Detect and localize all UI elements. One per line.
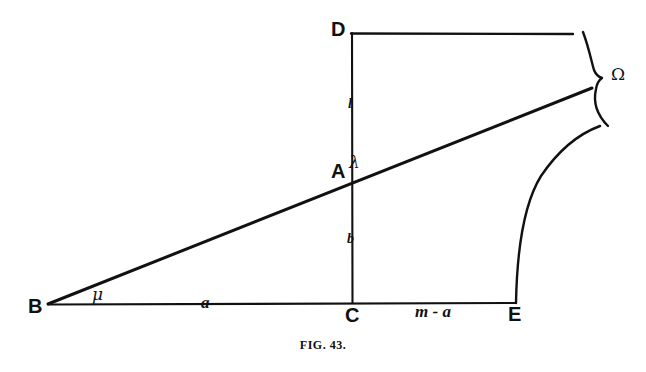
brace-label-omega: Ω xyxy=(611,66,625,83)
top-edge-D-right xyxy=(351,34,573,35)
diagram-background xyxy=(0,0,646,372)
point-label-A: A xyxy=(331,161,345,181)
point-label-E: E xyxy=(508,304,521,324)
point-label-B: B xyxy=(28,296,42,316)
figure-container: — ‖ — ’ ‖ · ○ B C E A D μ λ Ω l b a m - … xyxy=(0,0,646,372)
length-label-a: a xyxy=(201,294,210,311)
figure-caption-text: FIG. 43. xyxy=(300,338,346,352)
figure-caption: FIG. 43. xyxy=(0,336,646,353)
point-label-C: C xyxy=(345,305,359,325)
angle-label-mu: μ xyxy=(92,286,103,303)
length-label-m-minus-a: m - a xyxy=(415,303,451,320)
geometry-diagram xyxy=(0,0,646,372)
length-label-l: l xyxy=(348,97,352,111)
length-label-b: b xyxy=(347,232,354,246)
angle-label-lambda: λ xyxy=(349,154,360,171)
point-label-D: D xyxy=(331,19,345,39)
